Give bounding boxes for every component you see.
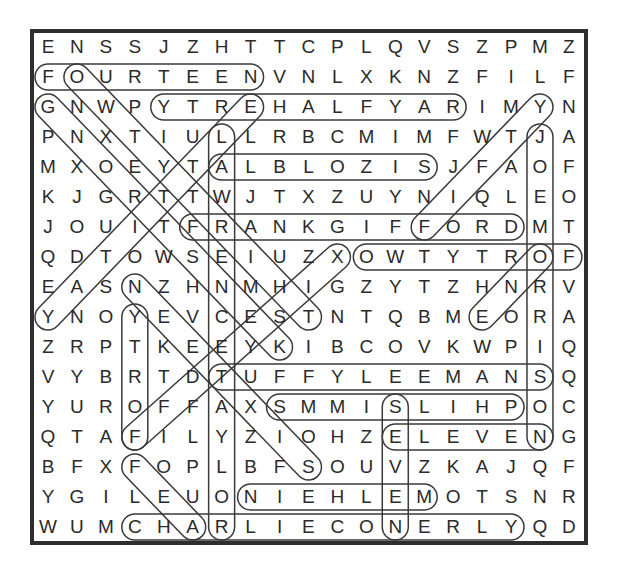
letter-cell[interactable]: A (295, 93, 321, 121)
letter-cell[interactable]: O (324, 453, 350, 481)
letter-cell[interactable]: N (498, 273, 524, 301)
letter-cell[interactable]: T (469, 243, 495, 271)
letter-cell[interactable]: B (324, 333, 350, 361)
letter-cell[interactable]: I (440, 183, 466, 211)
letter-cell[interactable]: X (93, 123, 119, 151)
letter-cell[interactable]: E (151, 303, 177, 331)
letter-cell[interactable]: E (295, 513, 321, 541)
letter-cell[interactable]: M (324, 393, 350, 421)
letter-cell[interactable]: V (267, 63, 293, 91)
letter-cell[interactable]: Q (382, 303, 408, 331)
letter-cell[interactable]: D (498, 213, 524, 241)
letter-cell[interactable]: A (556, 123, 582, 151)
letter-cell[interactable]: V (469, 423, 495, 451)
letter-cell[interactable]: O (122, 243, 148, 271)
letter-cell[interactable]: H (469, 393, 495, 421)
letter-cell[interactable]: T (469, 483, 495, 511)
letter-cell[interactable]: O (353, 243, 379, 271)
letter-cell[interactable]: Q (382, 33, 408, 61)
letter-cell[interactable]: F (295, 363, 321, 391)
letter-cell[interactable]: Y (64, 363, 90, 391)
letter-cell[interactable]: O (527, 243, 553, 271)
letter-cell[interactable]: J (527, 123, 553, 151)
letter-cell[interactable]: P (122, 93, 148, 121)
letter-cell[interactable]: P (180, 453, 206, 481)
letter-cell[interactable]: Q (35, 243, 61, 271)
letter-cell[interactable]: O (93, 153, 119, 181)
letter-cell[interactable]: A (209, 153, 235, 181)
letter-cell[interactable]: R (122, 63, 148, 91)
letter-cell[interactable]: J (498, 453, 524, 481)
letter-cell[interactable]: O (527, 153, 553, 181)
letter-cell[interactable]: G (93, 183, 119, 211)
letter-cell[interactable]: I (267, 513, 293, 541)
letter-cell[interactable]: T (238, 33, 264, 61)
letter-cell[interactable]: D (180, 363, 206, 391)
letter-cell[interactable]: U (93, 213, 119, 241)
letter-cell[interactable]: C (556, 393, 582, 421)
letter-cell[interactable]: O (93, 303, 119, 331)
letter-cell[interactable]: O (64, 63, 90, 91)
letter-cell[interactable]: F (180, 213, 206, 241)
letter-cell[interactable]: O (353, 513, 379, 541)
letter-cell[interactable]: X (64, 153, 90, 181)
letter-cell[interactable]: Q (35, 423, 61, 451)
letter-cell[interactable]: F (267, 363, 293, 391)
letter-cell[interactable]: R (209, 93, 235, 121)
letter-cell[interactable]: S (267, 393, 293, 421)
letter-cell[interactable]: U (353, 183, 379, 211)
letter-cell[interactable]: V (382, 453, 408, 481)
letter-cell[interactable]: T (122, 333, 148, 361)
letter-cell[interactable]: G (35, 93, 61, 121)
letter-cell[interactable]: Q (527, 453, 553, 481)
letter-cell[interactable]: T (93, 243, 119, 271)
letter-cell[interactable]: O (556, 183, 582, 211)
letter-cell[interactable]: M (295, 393, 321, 421)
letter-cell[interactable]: N (122, 273, 148, 301)
letter-cell[interactable]: F (353, 93, 379, 121)
letter-cell[interactable]: X (353, 63, 379, 91)
letter-cell[interactable]: N (556, 93, 582, 121)
letter-cell[interactable]: G (324, 213, 350, 241)
letter-cell[interactable]: P (498, 333, 524, 361)
letter-cell[interactable]: O (382, 333, 408, 361)
letter-cell[interactable]: P (498, 393, 524, 421)
letter-cell[interactable]: M (498, 93, 524, 121)
letter-cell[interactable]: Z (324, 183, 350, 211)
letter-cell[interactable]: U (64, 393, 90, 421)
letter-cell[interactable]: F (556, 153, 582, 181)
letter-cell[interactable]: I (267, 483, 293, 511)
letter-cell[interactable]: Y (35, 393, 61, 421)
letter-cell[interactable]: N (411, 183, 437, 211)
letter-cell[interactable]: D (64, 243, 90, 271)
letter-cell[interactable]: T (122, 123, 148, 151)
letter-cell[interactable]: W (209, 183, 235, 211)
letter-cell[interactable]: E (209, 333, 235, 361)
letter-cell[interactable]: Y (122, 303, 148, 331)
letter-cell[interactable]: V (180, 303, 206, 331)
letter-cell[interactable]: L (324, 63, 350, 91)
letter-cell[interactable]: U (267, 243, 293, 271)
letter-cell[interactable]: T (267, 183, 293, 211)
letter-cell[interactable]: L (353, 363, 379, 391)
letter-cell[interactable]: V (411, 333, 437, 361)
letter-cell[interactable]: E (382, 363, 408, 391)
letter-cell[interactable]: I (382, 153, 408, 181)
letter-cell[interactable]: U (238, 363, 264, 391)
letter-cell[interactable]: T (180, 153, 206, 181)
letter-cell[interactable]: R (64, 333, 90, 361)
letter-cell[interactable]: I (469, 93, 495, 121)
letter-cell[interactable]: L (295, 153, 321, 181)
letter-cell[interactable]: H (324, 483, 350, 511)
letter-cell[interactable]: T (411, 273, 437, 301)
letter-cell[interactable]: R (556, 483, 582, 511)
letter-cell[interactable]: D (556, 513, 582, 541)
letter-cell[interactable]: X (238, 393, 264, 421)
letter-cell[interactable]: Z (35, 333, 61, 361)
letter-cell[interactable]: K (151, 333, 177, 361)
letter-cell[interactable]: F (411, 213, 437, 241)
letter-cell[interactable]: F (267, 453, 293, 481)
letter-cell[interactable]: K (35, 183, 61, 211)
letter-cell[interactable]: F (35, 63, 61, 91)
letter-cell[interactable]: A (411, 93, 437, 121)
